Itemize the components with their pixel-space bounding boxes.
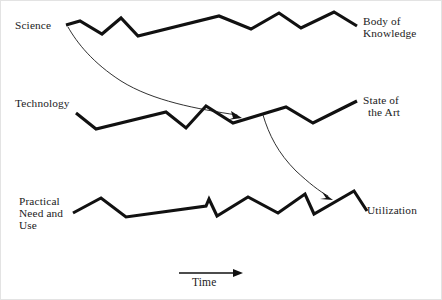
label-practical-line2: Need and [19,207,63,219]
science-to-state-of-the-art-arrow [68,27,242,120]
label-state-of-the-art-line2: the Art [363,106,400,118]
label-state-of-the-art-line1: State of [363,94,399,106]
label-body-of-knowledge-line2: Knowledge [363,27,416,39]
diagram-graphics [1,1,442,300]
label-practical-line3: Use [19,219,37,231]
science-body-of-knowledge-line [66,12,357,36]
label-practical-need-and-use: PracticalNeed andUse [19,195,63,232]
label-body-of-knowledge: Body ofKnowledge [363,15,416,39]
label-time-axis: Time [192,276,216,288]
label-science: Science [15,19,51,31]
label-state-of-the-art: State ofthe Art [363,94,400,118]
practical-need-utilization-line [73,191,367,217]
label-body-of-knowledge-line1: Body of [363,15,401,27]
label-technology: Technology [15,97,70,109]
label-utilization: Utilization [367,204,417,216]
state-of-the-art-to-utilization-arrow [263,115,333,200]
technology-state-of-the-art-line [76,101,357,129]
diagram-canvas: Science Body ofKnowledge Technology Stat… [0,0,442,300]
label-practical-line1: Practical [19,195,60,207]
